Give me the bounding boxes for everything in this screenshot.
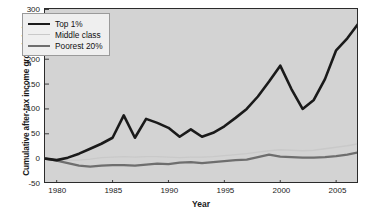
legend-swatch-middle-class — [28, 34, 50, 35]
x-axis-label: Year — [44, 199, 358, 209]
legend-item-poorest20: Poorest 20% — [28, 40, 103, 51]
y-tick-150: 150 — [10, 79, 40, 88]
y-tick-50: 50 — [10, 129, 40, 138]
y-tick-neg50: -50 — [10, 179, 40, 188]
x-tick-1980: 1980 — [48, 186, 66, 195]
x-tick-1995: 1995 — [216, 186, 234, 195]
legend-label-poorest20: Poorest 20% — [55, 41, 103, 51]
legend-item-middle-class: Middle class — [28, 29, 103, 40]
x-tick-2005: 2005 — [329, 186, 347, 195]
chart-legend: Top 1% Middle class Poorest 20% — [22, 13, 110, 56]
legend-swatch-top1 — [28, 23, 50, 25]
x-tick-1990: 1990 — [160, 186, 178, 195]
x-tick-2000: 2000 — [272, 186, 290, 195]
y-tick-0: 0 — [10, 154, 40, 163]
chart-figure: Cumulative after-tax income growth (%) 3… — [0, 0, 371, 213]
legend-label-top1: Top 1% — [55, 19, 83, 29]
x-tick-1985: 1985 — [104, 186, 122, 195]
y-tick-100: 100 — [10, 104, 40, 113]
legend-item-top1: Top 1% — [28, 18, 103, 29]
legend-swatch-poorest20 — [28, 45, 50, 47]
legend-label-middle-class: Middle class — [55, 30, 101, 40]
